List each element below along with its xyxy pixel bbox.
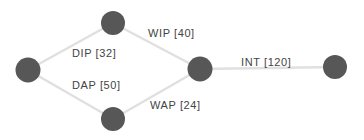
edge-label: DIP [32] [72,47,116,59]
node-bottom [101,107,125,131]
edge-label: INT [120] [241,56,291,68]
node-start [16,58,41,83]
edge-label: WIP [40] [148,27,195,39]
network-diagram: DIP [32]DAP [50]WIP [40]WAP [24]INT [120… [0,0,364,140]
edge-bottom-merge [113,69,200,119]
node-end [323,55,347,79]
node-top [101,11,125,35]
edge-start-bottom [28,70,113,119]
edge-label: DAP [50] [72,79,121,91]
edge-label: WAP [24] [150,99,201,111]
node-merge [188,57,213,82]
